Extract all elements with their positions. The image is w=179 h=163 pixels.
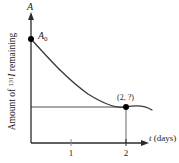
y-axis-label-suffix: remaining (7, 33, 17, 74)
x-tick-label-2: 2 (119, 148, 133, 158)
y-axis-label-prefix: Amount of (7, 86, 17, 130)
x-axis-name-label: t (days) (149, 134, 176, 143)
query-amount-point (123, 104, 129, 110)
x-tick-label-1: 1 (64, 148, 78, 158)
decay-figure: A A0 (2, ?) t (days) 1 2 Amount of 131I … (0, 0, 179, 163)
initial-amount-subscript: 0 (44, 35, 48, 43)
y-axis-label: Amount of 131I remaining (7, 21, 18, 141)
initial-amount-point (28, 36, 34, 42)
query-point-label: (2, ?) (117, 94, 134, 102)
x-axis-units: (days) (154, 133, 177, 143)
y-axis-label-container: Amount of 131I remaining (0, 0, 22, 163)
x-axis-arrowhead (141, 140, 149, 146)
y-axis-label-isotope-mass: 131 (7, 77, 14, 87)
y-axis-label-element: I (7, 74, 17, 77)
y-axis-arrowhead (28, 12, 34, 20)
initial-amount-label: A0 (38, 31, 48, 43)
x-axis-variable: t (149, 133, 152, 143)
y-axis-name-label: A (27, 2, 33, 12)
